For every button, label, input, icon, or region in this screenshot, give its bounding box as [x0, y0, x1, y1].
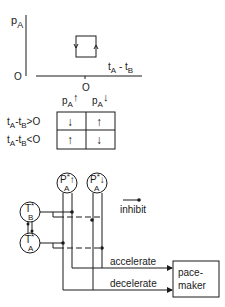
phase-plot: pA O O tA - tB [11, 14, 142, 93]
truth-table: pA↑ pA↓ tA-tB>O tA-tB<O ↓ ↑ ↑ ↓ [7, 91, 115, 149]
inhibit-node [90, 218, 94, 222]
circuit-diagram: P*↑ A P*↓ A T* B T* A [20, 172, 219, 297]
x-axis-label: tA - tB [108, 61, 133, 75]
cell-arrow-icon: ↑ [96, 115, 102, 129]
pacemaker-label-1: pace- [178, 267, 203, 278]
y-axis-label: pA [11, 14, 23, 30]
col-header-pa-up: pA↑ [62, 91, 78, 109]
inhibit-legend-label: inhibit [120, 204, 146, 215]
decelerate-label: decelerate [110, 278, 157, 289]
pacemaker-label-2: maker [178, 280, 206, 291]
col-header-pa-down: pA↓ [92, 91, 108, 109]
svg-text:B: B [28, 213, 33, 222]
inhibit-node [70, 210, 74, 214]
svg-text:A: A [64, 184, 70, 193]
row-label-negative: tA-tB<O [7, 134, 40, 148]
hysteresis-loop [76, 36, 96, 57]
svg-text:A: A [94, 184, 100, 193]
svg-text:A: A [28, 244, 34, 253]
row-label-positive: tA-tB>O [7, 116, 40, 130]
cell-arrow-icon: ↓ [67, 115, 73, 129]
inhibit-node [61, 241, 65, 245]
cell-arrow-icon: ↓ [96, 133, 102, 147]
inhibit-node [100, 246, 104, 250]
diagram-canvas: pA O O tA - tB pA↑ pA↓ tA-tB>O tA-tB<O ↓… [0, 0, 225, 307]
x-origin-label: O [82, 82, 90, 93]
y-origin-label: O [14, 71, 22, 82]
accelerate-label: accelerate [110, 256, 157, 267]
cell-arrow-icon: ↑ [67, 133, 73, 147]
inhibit-legend-dot-icon [137, 198, 141, 202]
